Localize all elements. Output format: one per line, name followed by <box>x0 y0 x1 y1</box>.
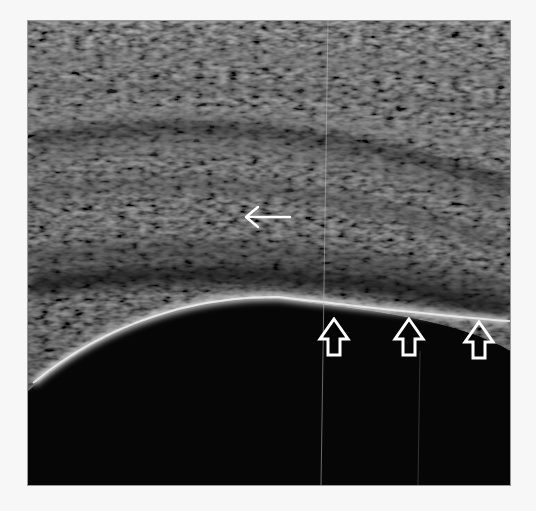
ultrasound-image <box>28 21 510 485</box>
ultrasound-scan <box>28 21 510 485</box>
arrow-up-icon <box>392 317 426 357</box>
arrow-left-icon <box>242 204 292 230</box>
arrow-up-icon <box>462 320 496 360</box>
arrow-up-icon <box>317 317 351 357</box>
